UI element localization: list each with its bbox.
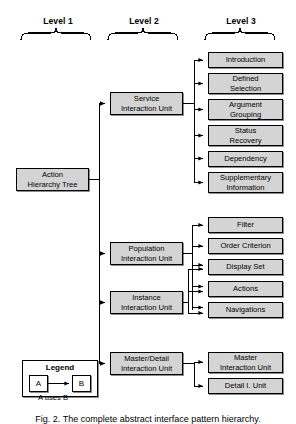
node-master-detail-interaction-unit[interactable]: Master/Detail Interaction Unit [110, 352, 183, 375]
node-line-2: Grouping [229, 110, 262, 120]
node-line-1: Action [28, 170, 78, 180]
node-defined-selection[interactable]: Defined Selection [208, 73, 283, 94]
node-line-1: Supplementary [220, 173, 271, 183]
node-line-2: Interaction Unit [121, 364, 172, 374]
node-line-1: Display Set [226, 262, 264, 272]
node-line-2: Information [220, 183, 271, 193]
node-line-1: Actions [233, 284, 258, 294]
node-instance-interaction-unit[interactable]: Instance Interaction Unit [110, 291, 183, 314]
node-actions[interactable]: Actions [208, 281, 283, 297]
legend-caption: A uses B [38, 393, 68, 402]
node-line-1: Order Criterion [220, 241, 270, 251]
node-display-set[interactable]: Display Set [208, 259, 283, 275]
node-order-criterion[interactable]: Order Criterion [208, 238, 283, 254]
node-master-interaction-unit[interactable]: Master Interaction Unit [208, 352, 283, 373]
node-action-hierarchy-tree[interactable]: Action Hierarchy Tree [16, 168, 89, 191]
legend-title: Legend [23, 363, 97, 372]
node-line-1: Service [121, 94, 172, 104]
node-navigations[interactable]: Navigations [208, 302, 283, 318]
node-line-2: Interaction Unit [220, 363, 271, 373]
node-line-2: Selection [230, 84, 261, 94]
level-1-label: Level 1 [27, 16, 89, 26]
legend-box-a-label: A [36, 379, 41, 388]
legend-box-b: B [72, 375, 91, 392]
node-line-1: Filter [237, 220, 254, 230]
node-line-1: Detail I. Unit [225, 381, 266, 391]
node-line-1: Navigations [226, 305, 266, 315]
level-3-label: Level 3 [210, 16, 272, 26]
node-line-1: Argument [229, 100, 262, 110]
node-status-recovery[interactable]: Status Recovery [208, 125, 283, 146]
node-line-1: Master [220, 353, 271, 363]
node-service-interaction-unit[interactable]: Service Interaction Unit [110, 92, 183, 115]
node-detail-i-unit[interactable]: Detail I. Unit [208, 378, 283, 394]
node-line-2: Interaction Unit [121, 254, 172, 264]
node-line-2: Hierarchy Tree [28, 180, 78, 190]
level-bracket-1 [21, 28, 91, 40]
node-line-1: Master/Detail [121, 354, 172, 364]
node-line-1: Instance [121, 293, 172, 303]
node-line-1: Defined [230, 74, 261, 84]
node-supplementary-information[interactable]: Supplementary Information [208, 172, 283, 193]
level-2-label: Level 2 [113, 16, 175, 26]
level-bracket-2 [108, 28, 178, 40]
node-line-1: Population [121, 244, 172, 254]
node-line-1: Status [229, 126, 261, 136]
node-line-1: Dependency [224, 154, 267, 164]
node-line-1: Introduction [226, 55, 266, 65]
node-introduction[interactable]: Introduction [208, 52, 283, 68]
level-bracket-3 [205, 28, 275, 40]
node-argument-grouping[interactable]: Argument Grouping [208, 99, 283, 120]
figure-caption: Fig. 2. The complete abstract interface … [0, 414, 296, 424]
node-line-2: Recovery [229, 136, 261, 146]
legend-box-b-label: B [79, 379, 84, 388]
node-line-2: Interaction Unit [121, 303, 172, 313]
node-line-2: Interaction Unit [121, 104, 172, 114]
node-dependency[interactable]: Dependency [208, 151, 283, 167]
node-population-interaction-unit[interactable]: Population Interaction Unit [110, 242, 183, 265]
legend-box-a: A [29, 375, 48, 392]
node-filter[interactable]: Filter [208, 217, 283, 233]
